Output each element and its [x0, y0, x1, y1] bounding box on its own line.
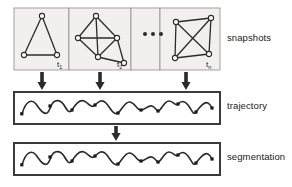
arrows-trajectory-to-segmentation: [111, 126, 120, 141]
row-label-snapshots: snapshots: [227, 33, 271, 43]
graph-node: [95, 54, 100, 59]
time-label-t2: t2: [117, 61, 122, 69]
row-label-trajectory: trajectory: [227, 101, 267, 111]
graph-node: [208, 15, 213, 20]
arrows-snapshots-to-trajectory: [37, 72, 190, 90]
arrow-trajectory-down: [111, 126, 120, 141]
wave-marker: [156, 160, 159, 163]
pipeline-figure: t1 t2 tn snapshots trajectory segmentati…: [0, 0, 292, 187]
graph-node: [75, 35, 80, 40]
segmentation-box[interactable]: [14, 143, 220, 175]
wave-marker: [139, 108, 142, 111]
wave-marker: [48, 104, 51, 107]
arrow-t2-down: [95, 72, 104, 90]
segmentation-row: [14, 143, 220, 175]
wave-marker: [156, 109, 159, 112]
graph-node: [173, 19, 178, 24]
graph-node: [172, 55, 177, 60]
graph-node: [39, 13, 44, 18]
wave-marker: [70, 159, 73, 162]
time-label-t1: t1: [57, 61, 62, 69]
wave-marker: [116, 162, 119, 165]
wave-marker: [70, 108, 73, 111]
wave-marker: [93, 154, 96, 157]
arrow-t1-down: [37, 72, 46, 90]
wave-marker: [210, 106, 213, 109]
time-label-tn: tn: [206, 61, 211, 69]
graph-node: [21, 52, 26, 57]
wave-marker: [93, 103, 96, 106]
wave-marker: [194, 110, 197, 113]
trajectory-row: [14, 92, 220, 124]
trajectory-box[interactable]: [14, 92, 220, 124]
wave-marker: [194, 161, 197, 164]
graph-node: [206, 51, 211, 56]
wave-marker: [20, 112, 23, 115]
wave-marker: [176, 102, 179, 105]
wave-marker: [20, 163, 23, 166]
snapshot-panel-ellipsis[interactable]: [131, 8, 160, 70]
wave-marker: [116, 111, 119, 114]
wave-marker: [48, 155, 51, 158]
wave-marker: [139, 159, 142, 162]
graph-node: [114, 35, 119, 40]
wave-marker: [210, 157, 213, 160]
graph-node: [93, 13, 98, 18]
arrow-tn-down: [181, 72, 190, 90]
wave-marker: [176, 153, 179, 156]
ellipsis-icon: [140, 30, 166, 38]
row-label-segmentation: segmentation: [227, 152, 285, 162]
graph-node: [54, 52, 59, 57]
